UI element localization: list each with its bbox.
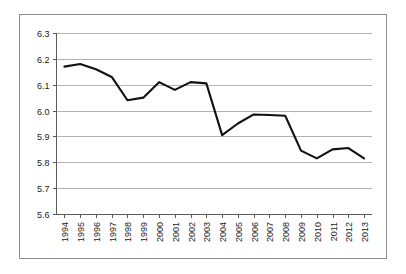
x-tick-label: 2007 (265, 222, 275, 242)
y-tick-label: 6.3 (37, 29, 50, 39)
y-tick-label: 6.2 (37, 55, 50, 65)
x-tick-label: 2002 (187, 222, 197, 242)
x-tick-label: 1999 (139, 222, 149, 242)
x-tick-label: 2013 (360, 222, 370, 242)
x-tick-label: 2009 (297, 222, 307, 242)
x-axis-labels-group: 1994199519961997199819992000200120022003… (60, 222, 370, 242)
x-tick-label: 2008 (281, 222, 291, 242)
gridlines-group (57, 34, 373, 215)
y-axis-labels-group: 6.36.26.16.05.95.85.75.6 (37, 29, 50, 220)
x-tick-label: 2000 (155, 222, 165, 242)
x-tick-label: 2011 (329, 222, 339, 241)
y-tick-label: 6.1 (37, 81, 50, 91)
y-tick-label: 5.9 (37, 132, 50, 142)
chart-figure: 6.36.26.16.05.95.85.75.6 199419951996199… (0, 0, 406, 274)
x-tick-label: 1994 (60, 222, 70, 242)
y-axis-ticks-group (53, 34, 57, 215)
x-tick-label: 2005 (234, 222, 244, 242)
x-tick-label: 2010 (313, 222, 323, 242)
y-tick-label: 5.7 (37, 184, 50, 194)
y-tick-label: 6.0 (37, 107, 50, 117)
x-tick-label: 2001 (171, 222, 181, 242)
x-tick-label: 1995 (76, 222, 86, 242)
line-chart: 6.36.26.16.05.95.85.75.6 199419951996199… (0, 0, 406, 274)
x-tick-label: 1997 (108, 222, 118, 242)
x-tick-label: 2003 (202, 222, 212, 242)
y-tick-label: 5.6 (37, 210, 50, 220)
x-tick-label: 2004 (218, 222, 228, 242)
x-tick-label: 1996 (92, 222, 102, 242)
x-tick-label: 2012 (344, 222, 354, 242)
y-tick-label: 5.8 (37, 158, 50, 168)
x-tick-label: 1998 (123, 222, 133, 242)
x-tick-label: 2006 (250, 222, 260, 242)
